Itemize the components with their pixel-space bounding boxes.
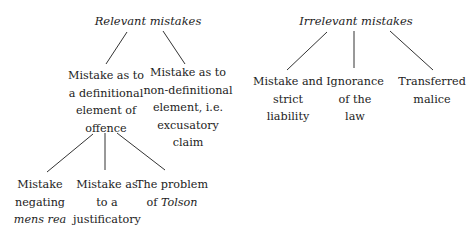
- node-label-line: offence: [68, 120, 144, 138]
- node-label-line: Transferred: [398, 73, 466, 91]
- node-label: Irrelevant mistakes: [299, 14, 413, 28]
- node-label-line: excusatory: [143, 117, 232, 135]
- node-label-line: a definitional: [68, 85, 144, 103]
- edge-relevant-to-definitional: [106, 32, 127, 64]
- node-label-line: negating: [14, 194, 66, 212]
- node-label-line: Ignorance: [326, 73, 384, 91]
- node-label-line: to a: [73, 194, 141, 212]
- node-label-line: liability: [253, 108, 323, 126]
- node-label-line: justificatory: [73, 211, 141, 225]
- node-ignorance-of-law: Ignorance of the law: [326, 73, 384, 126]
- node-label-line: strict: [253, 91, 323, 109]
- label-prefix: of: [146, 196, 160, 209]
- node-label-line: element of: [68, 102, 144, 120]
- node-label-line: The problem: [136, 176, 208, 194]
- node-label-line: element, i.e.: [143, 99, 232, 117]
- node-justificatory-claim: Mistake as to a justificatory claim: [73, 176, 141, 225]
- edge-relevant-to-non-definitional: [163, 31, 185, 64]
- node-label-line: of the: [326, 91, 384, 109]
- node-non-definitional-element: Mistake as to non-definitional element, …: [143, 64, 232, 152]
- node-label-line: Mistake as to: [143, 64, 232, 82]
- node-label-line: non-definitional: [143, 82, 232, 100]
- node-label-line: Mistake: [14, 176, 66, 194]
- edge-definitional-to-negating: [47, 134, 93, 172]
- edge-irrelevant-to-strict: [287, 32, 327, 70]
- edge-irrelevant-to-transferred: [390, 31, 433, 70]
- node-label-line: Mistake and: [253, 73, 323, 91]
- node-label: Relevant mistakes: [95, 14, 202, 28]
- node-label-line: claim: [143, 134, 232, 152]
- node-label-line: mens rea: [14, 211, 66, 225]
- node-definitional-element: Mistake as to a definitional element of …: [68, 67, 144, 137]
- node-label-line: of Tolson: [136, 194, 208, 212]
- node-relevant-mistakes: Relevant mistakes: [95, 13, 202, 31]
- node-label-line: Mistake as: [73, 176, 141, 194]
- case-name: Tolson: [161, 196, 198, 209]
- node-irrelevant-mistakes: Irrelevant mistakes: [299, 13, 413, 31]
- node-mistake-strict-liability: Mistake and strict liability: [253, 73, 323, 126]
- node-label-line: Mistake as to: [68, 67, 144, 85]
- node-label-line: malice: [398, 91, 466, 109]
- node-problem-of-tolson: The problem of Tolson: [136, 176, 208, 211]
- node-mistake-negating-mens-rea: Mistake negating mens rea: [14, 176, 66, 225]
- node-transferred-malice: Transferred malice: [398, 73, 466, 108]
- node-label-line: law: [326, 108, 384, 126]
